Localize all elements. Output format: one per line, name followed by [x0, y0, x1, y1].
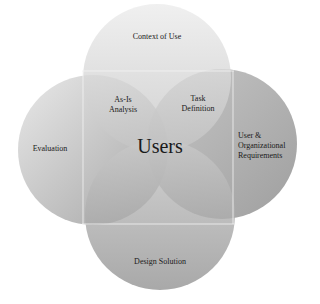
- label-context-of-use: Context of Use: [112, 32, 202, 42]
- label-evaluation: Evaluation: [22, 144, 78, 154]
- label-task-line1: Task: [170, 94, 226, 104]
- label-as-is-line1: As-Is: [98, 95, 148, 105]
- circle-design: [85, 140, 235, 290]
- label-task-definition: Task Definition: [170, 94, 226, 114]
- label-as-is-line2: Analysis: [98, 105, 148, 115]
- label-requirements: User & Organizational Requirements: [238, 131, 285, 161]
- label-users-center: Users: [125, 135, 195, 157]
- label-requirements-line3: Requirements: [238, 151, 285, 161]
- circle-context: [83, 4, 231, 152]
- label-design-solution: Design Solution: [115, 257, 205, 267]
- label-requirements-line1: User &: [238, 131, 285, 141]
- label-as-is-analysis: As-Is Analysis: [98, 95, 148, 115]
- label-task-line2: Definition: [170, 104, 226, 114]
- label-requirements-line2: Organizational: [238, 141, 285, 151]
